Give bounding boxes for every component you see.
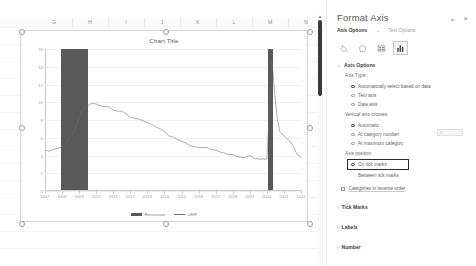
radio-at-category-number[interactable]: At category number [351,132,399,137]
x-axis-tick [62,191,63,194]
radio-date-axis[interactable]: Date axis [351,102,378,107]
x-axis-tick [79,191,80,194]
section-header-tick-marks[interactable]: ›Tick Marks [337,204,368,210]
x-axis-tick [284,191,285,194]
scroll-up-arrow-icon[interactable]: ▲ [318,14,323,19]
x-axis-tick [267,191,268,194]
x-axis-tick-label: 2018 [228,194,237,199]
sheet-row-line [0,231,320,232]
radio-indicator [351,142,355,146]
effects-icon[interactable] [355,41,370,55]
x-axis-tick-label: 2014 [160,194,169,199]
radio-indicator [351,124,355,128]
y-axis-tick-label: 10 [38,100,43,105]
column-header-J[interactable]: J [144,18,181,27]
section-label: Labels [342,224,358,230]
chart-legend[interactable]: RecessionUER [21,212,307,217]
format-axis-pane: Format Axis ⌄ × Axis Options⌄Text Option… [326,0,476,266]
category-number-input[interactable]: 1 [437,129,463,136]
checkbox-categories-in-reverse-order[interactable]: Categories in reverse order [341,186,405,191]
x-axis-tick-label: 2008 [58,194,67,199]
checkbox-indicator [341,187,345,191]
selection-handle-bottom-right[interactable] [307,221,314,228]
column-header-I[interactable]: I [108,18,145,27]
x-axis-tick [182,191,183,194]
uer-line-series[interactable] [45,49,301,191]
section-label: Number [342,244,361,250]
section-header-number[interactable]: ›Number [337,244,361,250]
chevron-right-icon: › [337,225,339,230]
pane-tabs[interactable]: Axis Options⌄Text Options [337,28,415,33]
axis-options-chart-icon[interactable] [393,41,408,55]
y-axis-line[interactable] [45,49,46,191]
radio-label: Automatic [358,123,379,128]
vertical-scrollbar-thumb[interactable] [318,20,322,96]
tab-axis-options[interactable]: Axis Options [337,28,367,33]
x-axis-tick-label: 2013 [143,194,152,199]
chart-plot-area[interactable]: 1614121086420 20072008200920102011201220… [45,49,301,191]
pane-header-buttons: ⌄ × [449,15,468,23]
axis-type-label: Axis Type [345,73,365,78]
y-axis-tick-label: 14 [38,64,43,69]
x-axis-tick [250,191,251,194]
column-header-G[interactable]: G [36,18,73,27]
section-header-axis-options[interactable]: ⌄Axis Options [337,62,375,68]
sheet-row-line [0,27,320,28]
radio-on-tick-marks[interactable]: On tick marks [351,162,387,167]
column-header-L[interactable]: L [216,18,253,27]
legend-item-uer[interactable]: UER [174,212,197,217]
chevron-down-icon[interactable]: ⌄ [376,28,380,33]
legend-item-recession[interactable]: Recession [131,212,165,217]
radio-label: Automatically select based on data [358,84,430,89]
radio-between-tick-marks[interactable]: Between tick marks [351,173,399,178]
radio-at-maximum-category[interactable]: At maximum category [351,141,403,146]
fill-icon[interactable] [336,41,351,55]
x-axis-tick-label: 2019 [245,194,254,199]
x-axis-tick-label: 2020 [262,194,271,199]
size-properties-icon[interactable] [374,41,389,55]
chart-title[interactable]: Chart Title [21,37,307,44]
gridline [45,191,301,192]
sheet-row-line [0,248,320,249]
legend-swatch [174,214,185,215]
selection-handle-top-center[interactable] [163,29,170,36]
x-axis-tick [147,191,148,194]
column-header-M[interactable]: M [252,18,289,27]
radio-label: Date axis [358,102,378,107]
selection-handle-middle-right[interactable] [307,125,314,132]
tab-text-options[interactable]: Text Options [388,28,415,33]
column-header-H[interactable]: H [72,18,109,27]
axis-position-label: Axis position [345,151,371,156]
x-axis-tick-label: 2011 [109,194,118,199]
y-axis-tick-label: 2 [41,171,43,176]
x-axis-tick-label: 2021 [279,194,288,199]
radio-automatic[interactable]: Automatic [351,123,379,128]
pane-icon-toolbar[interactable] [336,41,408,55]
x-axis-tick-label: 2017 [211,194,220,199]
selection-handle-top-left[interactable] [19,29,26,36]
radio-label: On tick marks [358,162,387,167]
x-axis-tick [130,191,131,194]
section-label: Tick Marks [342,204,368,210]
chevron-right-icon: › [337,245,339,250]
column-header-K[interactable]: K [180,18,217,27]
radio-automatically-select-based-on-data[interactable]: Automatically select based on data [351,84,431,89]
radio-indicator [351,85,355,89]
close-icon[interactable]: × [464,15,468,23]
chart-object[interactable]: Chart Title 1614121086420 20072008200920… [20,30,308,222]
radio-label: At maximum category [358,141,403,146]
section-header-labels[interactable]: ›Labels [337,224,358,230]
selection-handle-middle-left[interactable] [19,125,26,132]
radio-label: Between tick marks [358,173,399,178]
chevron-down-icon[interactable]: ⌄ [449,15,456,23]
x-axis-tick [45,191,46,194]
x-axis-tick-label: 2015 [177,194,186,199]
radio-text-axis[interactable]: Text axis [351,93,376,98]
legend-label: Recession [145,212,166,217]
y-axis-tick-label: 16 [38,47,43,52]
y-axis-tick-label: 4 [41,153,43,158]
x-axis-line[interactable] [45,190,301,191]
x-axis-tick-label: 2007 [40,194,49,199]
y-axis-tick-label: 8 [41,118,43,123]
radio-label: At category number [358,132,399,137]
